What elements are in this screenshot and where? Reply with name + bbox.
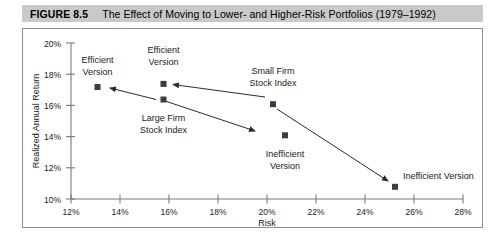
data-point-efficient-version-1 xyxy=(95,84,101,90)
y-tick-label-16: 16% xyxy=(44,101,61,111)
label-inefficient-version-2: Inefficient Version xyxy=(403,171,474,181)
x-tick-label-14: 14% xyxy=(111,207,128,217)
x-tick-label-18: 18% xyxy=(209,207,226,217)
data-point-large-firm-stock-index xyxy=(161,97,167,103)
y-tick-label-20: 20% xyxy=(44,39,61,49)
data-point-efficient-version-2 xyxy=(161,81,167,87)
data-point-inefficient-version-1 xyxy=(282,132,288,138)
data-point-inefficient-version-2 xyxy=(392,184,398,190)
y-axis-title: Realized Annual Return xyxy=(31,74,41,169)
label-efficient-version-2-line2: Version xyxy=(148,57,178,67)
x-tick-label-16: 16% xyxy=(160,207,177,217)
data-point-small-firm-stock-index xyxy=(270,101,276,107)
scatter-chart: 20% 18% 16% 14% 12% 10% 12% 14% 16% xyxy=(23,29,482,227)
arrow-large-firm-to-efficient xyxy=(110,88,156,100)
figure-caption-bar: FIGURE 8.5 The Effect of Moving to Lower… xyxy=(22,5,483,22)
figure-title: The Effect of Moving to Lower- and Highe… xyxy=(102,8,436,20)
x-axis-title: Risk xyxy=(258,218,276,227)
label-small-firm-line1: Small Firm xyxy=(252,66,295,76)
x-tick-label-28: 28% xyxy=(454,207,471,217)
y-tick-label-14: 14% xyxy=(44,132,61,142)
label-efficient-version-1-line1: Efficient xyxy=(82,55,114,65)
x-tick-label-12: 12% xyxy=(62,207,79,217)
figure-container: FIGURE 8.5 The Effect of Moving to Lower… xyxy=(0,0,497,247)
y-tick-label-12: 12% xyxy=(44,163,61,173)
label-large-firm-line2: Stock Index xyxy=(140,125,188,135)
label-efficient-version-1-line2: Version xyxy=(82,67,112,77)
label-large-firm-line1: Large Firm xyxy=(142,113,186,123)
label-small-firm-line2: Stock Index xyxy=(249,78,297,88)
x-tick-label-24: 24% xyxy=(356,207,373,217)
label-efficient-version-2-line1: Efficient xyxy=(148,45,180,55)
x-tick-label-22: 22% xyxy=(307,207,324,217)
plot-frame: 20% 18% 16% 14% 12% 10% 12% 14% 16% xyxy=(22,28,483,228)
y-tick-label-18: 18% xyxy=(44,70,61,80)
y-tick-label-10: 10% xyxy=(44,195,61,205)
x-tick-label-20: 20% xyxy=(258,207,275,217)
x-tick-label-26: 26% xyxy=(405,207,422,217)
label-inefficient-version-1-line1: Inefficient xyxy=(266,149,305,159)
label-inefficient-version-1-line2: Version xyxy=(270,161,300,171)
figure-number-label: FIGURE 8.5 xyxy=(30,8,88,20)
